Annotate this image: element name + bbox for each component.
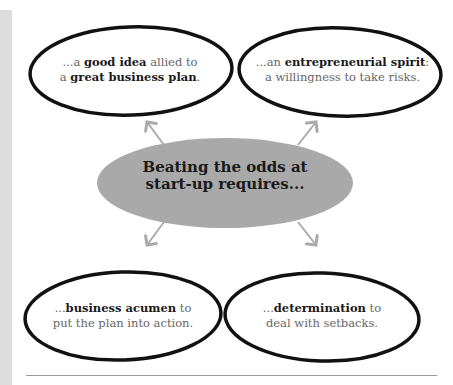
center-line-1: Beating the odds at [100, 159, 350, 176]
text: put the plan into action. [53, 316, 193, 330]
center-title: Beating the odds at start-up requires... [100, 159, 350, 193]
bold-text: business acumen [66, 301, 177, 315]
bubble-good-idea: ...a good idea allied to a great busines… [40, 55, 220, 85]
bottom-rule [26, 375, 437, 376]
bold-text: good idea [84, 55, 147, 69]
text: to [176, 301, 191, 315]
text: to [366, 301, 381, 315]
text: a [60, 70, 71, 84]
text: : [425, 55, 429, 69]
bubble-determination: ...determination to deal with setbacks. [232, 301, 412, 331]
text: ... [263, 301, 274, 315]
center-line-2: start-up requires... [100, 176, 350, 193]
bubble-entrepreneurial-spirit: ...an entrepreneurial spirit: a willingn… [250, 55, 435, 85]
text: deal with setbacks. [266, 316, 378, 330]
bold-text: entrepreneurial spirit [285, 55, 426, 69]
bold-text: great business plan [70, 70, 196, 84]
text: ... [55, 301, 66, 315]
text: a willingness to take risks. [265, 70, 420, 84]
text: ...an [256, 55, 285, 69]
text: . [197, 70, 201, 84]
text: ...a [62, 55, 83, 69]
bold-text: determination [274, 301, 366, 315]
bubble-business-acumen: ...business acumen to put the plan into … [33, 301, 213, 331]
text: allied to [147, 55, 198, 69]
